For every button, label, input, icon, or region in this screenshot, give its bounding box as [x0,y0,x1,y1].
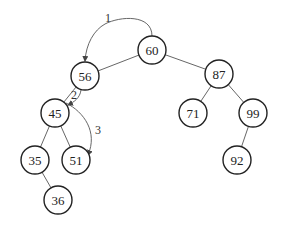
node-label: 92 [231,153,244,168]
node-label: 56 [79,69,93,84]
node-label: 45 [49,106,62,121]
node-label: 36 [52,193,66,208]
bst-diagram: 123 60568745719935519236 [0,0,286,232]
node-label: 60 [146,43,159,58]
search-step-label-2: 2 [71,88,77,102]
node-label: 51 [70,153,83,168]
node-label: 35 [29,153,42,168]
tree-node-87: 87 [205,60,233,88]
edge-60-87 [165,55,206,70]
tree-node-36: 36 [44,186,72,214]
node-label: 71 [187,106,200,121]
edge-45-51 [61,126,71,147]
node-label: 87 [213,67,227,82]
tree-node-45: 45 [41,99,69,127]
tree-node-99: 99 [239,99,267,127]
tree-node-92: 92 [223,146,251,174]
tree-node-56: 56 [71,62,99,90]
tree-node-60: 60 [138,36,166,64]
edge-87-99 [228,85,244,103]
tree-node-71: 71 [179,99,207,127]
search-step-label-1: 1 [105,11,111,25]
edge-99-92 [242,126,249,146]
search-step-label-3: 3 [95,123,101,137]
tree-node-51: 51 [62,146,90,174]
nodes: 60568745719935519236 [21,36,267,214]
edge-87-71 [201,86,211,102]
edge-45-35 [40,126,49,147]
edge-60-56 [98,55,139,71]
node-label: 99 [247,106,260,121]
edge-35-36 [42,172,51,188]
tree-node-35: 35 [21,146,49,174]
